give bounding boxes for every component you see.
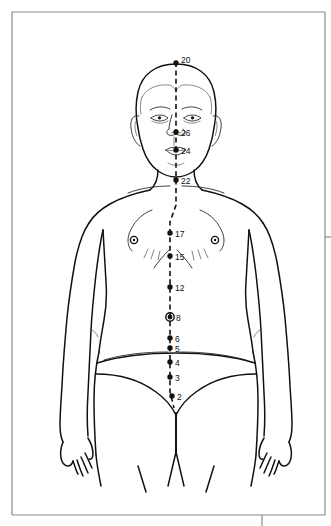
acupoint-dot[interactable] [173, 60, 178, 65]
acupoint-label: 22 [181, 176, 191, 186]
left-thumb [88, 438, 93, 459]
anatomical-diagram-panel: 20262422171512865432 [0, 0, 331, 526]
right-pupil [191, 116, 194, 119]
briefs-leg-left [96, 374, 176, 415]
right-thumb [259, 438, 264, 459]
right-hand-fingers [260, 453, 279, 476]
acupoint-dot[interactable] [169, 393, 174, 398]
inner-thigh-right [176, 452, 184, 486]
acupoint-dot[interactable] [167, 284, 172, 289]
briefs-leg-right [176, 374, 256, 415]
inner-thigh-left [168, 415, 176, 486]
acupoint-label: 17 [175, 229, 185, 239]
acupoint-label: 26 [181, 128, 191, 138]
left-eyebrow [150, 107, 170, 110]
right-thigh-outer [251, 455, 256, 486]
left-pupil [158, 116, 161, 119]
acupoint-dot[interactable] [173, 129, 178, 134]
acupoint-label: 2 [177, 392, 182, 402]
acupoint-label: 3 [175, 373, 180, 383]
acupoint-dot[interactable] [168, 315, 173, 320]
acupoint-label: 20 [181, 55, 191, 65]
acupoint-label: 8 [176, 313, 181, 323]
acupoint-dot[interactable] [173, 177, 178, 182]
hairline-temple-right [210, 97, 212, 114]
hairline-temple-left [140, 97, 142, 114]
right-leg-cut-line [206, 466, 214, 492]
anterior-body-meridian-diagram: 20262422171512865432 [0, 0, 331, 526]
costal-arch-left [154, 250, 169, 268]
left-rib-hatch [144, 249, 160, 260]
left-elbow-crease [92, 330, 98, 337]
left-arm-outer [60, 223, 89, 442]
acupoint-cv-20[interactable]: 20 [173, 55, 190, 65]
acupoint-cv-2[interactable]: 2 [169, 392, 182, 402]
hip-left [94, 352, 99, 455]
right-hand-outer [279, 442, 291, 466]
right-rib-hatch [192, 249, 208, 260]
nose-bridge-left [169, 115, 172, 129]
acupoint-cv-22[interactable]: 22 [173, 176, 190, 186]
right-nipple-center [214, 239, 216, 241]
right-arm-outer [263, 223, 292, 442]
acupoint-label: 5 [175, 344, 180, 354]
acupoint-cv-26[interactable]: 26 [173, 128, 190, 138]
right-pectoral [200, 210, 224, 251]
left-trapezius [89, 190, 150, 223]
acupoint-dot[interactable] [167, 359, 172, 364]
acupoint-dot[interactable] [173, 147, 178, 152]
left-thigh-outer [96, 455, 101, 486]
left-pectoral [128, 210, 152, 251]
acupoint-cv-8[interactable]: 8 [166, 313, 181, 323]
acupoint-label: 4 [175, 358, 180, 368]
page-border [12, 12, 331, 526]
right-eyebrow [182, 107, 202, 110]
right-trapezius [202, 190, 263, 223]
left-leg-cut-line [138, 466, 146, 492]
acupoint-label: 6 [175, 334, 180, 344]
left-nipple-center [133, 239, 135, 241]
acupoint-label: 24 [181, 146, 191, 156]
hip-right [253, 352, 258, 455]
right-elbow-crease [254, 330, 260, 337]
left-hand-outer [61, 442, 73, 466]
acupoint-label: 15 [175, 252, 185, 262]
acupoint-dot[interactable] [167, 374, 172, 379]
acupoint-cv-15[interactable]: 15 [167, 252, 184, 262]
left-hand-fingers [73, 453, 92, 476]
acupoint-dot[interactable] [167, 345, 172, 350]
acupoint-label: 12 [175, 283, 185, 293]
acupoint-dot[interactable] [167, 230, 172, 235]
acupoint-dot[interactable] [167, 253, 172, 258]
acupoint-dot[interactable] [167, 335, 172, 340]
